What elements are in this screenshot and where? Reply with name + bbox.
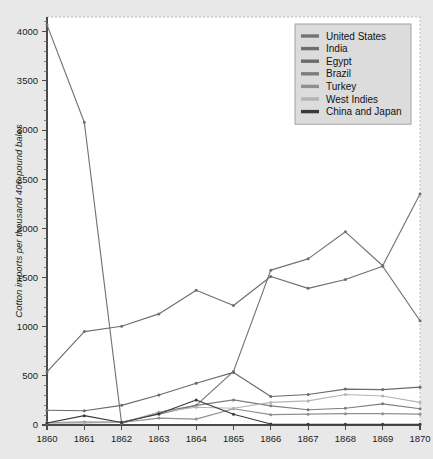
data-point xyxy=(269,275,272,278)
legend-label: Turkey xyxy=(326,81,356,92)
data-point xyxy=(344,278,347,281)
data-point xyxy=(269,404,272,407)
y-axis-title-text: Cotton imports per thousand 400-pound ba… xyxy=(13,124,24,318)
data-point xyxy=(381,395,384,398)
data-point xyxy=(381,265,384,268)
y-axis-title: Cotton imports per thousand 400-pound ba… xyxy=(13,124,24,318)
legend-label: United States xyxy=(326,31,386,42)
x-tick-label: 1870 xyxy=(409,433,430,444)
x-tick-label: 1865 xyxy=(223,433,244,444)
data-point xyxy=(269,413,272,416)
data-point xyxy=(344,230,347,233)
data-point xyxy=(232,304,235,307)
y-tick-label: 4000 xyxy=(17,26,38,37)
x-tick-label: 1862 xyxy=(111,433,132,444)
data-point xyxy=(344,412,347,415)
data-point xyxy=(269,395,272,398)
data-point xyxy=(232,413,235,416)
data-point xyxy=(419,407,422,410)
data-point xyxy=(120,325,123,328)
data-point xyxy=(307,423,310,426)
x-tick-label: 1869 xyxy=(372,433,393,444)
data-point xyxy=(195,418,198,421)
data-point xyxy=(195,406,198,409)
legend-label: Brazil xyxy=(326,68,351,79)
data-point xyxy=(46,422,49,425)
data-point xyxy=(419,413,422,416)
data-point xyxy=(344,423,347,426)
data-point xyxy=(307,393,310,396)
data-point xyxy=(46,23,49,26)
data-point xyxy=(419,423,422,426)
data-point xyxy=(195,382,198,385)
data-point xyxy=(381,423,384,426)
x-tick-label: 1861 xyxy=(74,433,95,444)
data-point xyxy=(157,412,160,415)
data-point xyxy=(269,269,272,272)
data-point xyxy=(120,404,123,407)
data-point xyxy=(83,330,86,333)
data-point xyxy=(419,386,422,389)
y-tick-label: 500 xyxy=(22,370,38,381)
legend-label: Egypt xyxy=(326,56,352,67)
x-tick-label: 1868 xyxy=(335,433,356,444)
data-point xyxy=(269,423,272,426)
data-point xyxy=(419,319,422,322)
data-point xyxy=(307,257,310,260)
data-point xyxy=(344,393,347,396)
data-point xyxy=(344,407,347,410)
data-point xyxy=(307,408,310,411)
x-tick-label: 1863 xyxy=(148,433,169,444)
legend-label: China and Japan xyxy=(326,106,402,117)
data-point xyxy=(232,371,235,374)
data-point xyxy=(46,370,49,373)
legend-label: India xyxy=(326,43,348,54)
data-point xyxy=(232,407,235,410)
y-tick-label: 1000 xyxy=(17,321,38,332)
x-tick-label: 1867 xyxy=(298,433,319,444)
data-point xyxy=(419,192,422,195)
data-point xyxy=(344,388,347,391)
data-point xyxy=(307,413,310,416)
y-tick-label: 0 xyxy=(33,419,38,430)
data-point xyxy=(83,121,86,124)
data-point xyxy=(381,412,384,415)
x-tick-label: 1860 xyxy=(36,433,57,444)
data-point xyxy=(157,312,160,315)
data-point xyxy=(195,398,198,401)
line-chart: 0500100015002000250030003500400018601861… xyxy=(0,0,433,459)
data-point xyxy=(419,401,422,404)
data-point xyxy=(83,414,86,417)
chart-container: 0500100015002000250030003500400018601861… xyxy=(0,0,433,459)
data-point xyxy=(381,402,384,405)
data-point xyxy=(269,401,272,404)
data-point xyxy=(381,388,384,391)
data-point xyxy=(83,422,86,425)
data-point xyxy=(232,398,235,401)
data-point xyxy=(195,289,198,292)
x-tick-label: 1866 xyxy=(260,433,281,444)
x-tick-label: 1864 xyxy=(186,433,207,444)
data-point xyxy=(307,287,310,290)
legend-label: West Indies xyxy=(326,94,378,105)
data-point xyxy=(46,409,49,412)
data-point xyxy=(120,421,123,424)
y-tick-label: 3500 xyxy=(17,75,38,86)
data-point xyxy=(83,409,86,412)
chart-legend[interactable]: United StatesIndiaEgyptBrazilTurkeyWest … xyxy=(295,24,411,124)
data-point xyxy=(307,399,310,402)
data-point xyxy=(157,417,160,420)
data-point xyxy=(157,394,160,397)
